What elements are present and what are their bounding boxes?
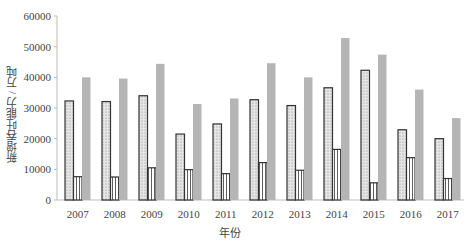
bar-series-gray-2013 xyxy=(304,77,313,200)
bar-series-gray-2017 xyxy=(452,118,461,200)
x-tick-label: 2012 xyxy=(252,208,274,220)
bar-series-gray-2010 xyxy=(193,104,202,200)
x-tick-label: 2008 xyxy=(104,208,127,220)
y-tick-label: 30000 xyxy=(24,102,52,114)
bar-series-dotted-2014 xyxy=(324,88,333,200)
bar-series-gray-2012 xyxy=(267,63,276,200)
bar-series-gray-2016 xyxy=(415,90,424,200)
bar-series-vertical-lines-2012 xyxy=(259,163,268,200)
bar-series-gray-2011 xyxy=(230,98,239,200)
bar-series-gray-2007 xyxy=(82,77,91,200)
bar-series-dotted-2012 xyxy=(250,100,259,200)
bar-series-dotted-2015 xyxy=(361,70,370,200)
bar-series-vertical-lines-2016 xyxy=(407,158,416,200)
bar-chart: 0100002000030000400005000060000200720082… xyxy=(0,0,467,244)
bar-series-vertical-lines-2007 xyxy=(74,177,83,200)
y-tick-label: 60000 xyxy=(24,10,52,22)
bar-series-gray-2015 xyxy=(378,55,387,200)
x-tick-label: 2014 xyxy=(326,208,349,220)
x-tick-label: 2013 xyxy=(289,208,312,220)
bar-series-vertical-lines-2011 xyxy=(222,174,231,200)
bar-series-dotted-2009 xyxy=(139,96,148,200)
x-tick-label: 2016 xyxy=(400,208,423,220)
bar-series-vertical-lines-2009 xyxy=(148,168,157,200)
bar-series-dotted-2011 xyxy=(213,124,222,200)
bar-series-vertical-lines-2015 xyxy=(370,183,379,200)
bar-series-dotted-2007 xyxy=(65,101,74,200)
bar-series-vertical-lines-2014 xyxy=(333,149,342,200)
bar-series-vertical-lines-2013 xyxy=(296,170,305,200)
bar-series-vertical-lines-2010 xyxy=(185,170,194,200)
bar-series-gray-2014 xyxy=(341,38,350,200)
y-tick-label: 20000 xyxy=(24,133,52,145)
y-tick-label: 40000 xyxy=(24,71,52,83)
bars xyxy=(65,38,461,200)
bar-series-vertical-lines-2017 xyxy=(444,179,453,200)
x-tick-label: 2009 xyxy=(141,208,164,220)
y-axis-label: 新增吞吐能力 / 万吨 xyxy=(4,40,22,190)
x-tick-label: 2017 xyxy=(437,208,460,220)
bar-series-dotted-2010 xyxy=(176,134,185,200)
bar-series-vertical-lines-2008 xyxy=(111,177,120,200)
x-tick-label: 2010 xyxy=(178,208,201,220)
bar-series-gray-2008 xyxy=(119,79,128,200)
y-tick-label: 0 xyxy=(46,194,52,206)
y-tick-label: 10000 xyxy=(24,163,52,175)
bar-series-dotted-2013 xyxy=(287,106,296,200)
y-tick-label: 50000 xyxy=(24,41,52,53)
bar-series-dotted-2017 xyxy=(435,139,444,200)
bar-series-gray-2009 xyxy=(156,64,165,200)
bar-series-dotted-2008 xyxy=(102,102,111,200)
bar-series-dotted-2016 xyxy=(398,130,407,200)
x-axis-label: 年份 xyxy=(200,224,260,240)
x-tick-label: 2007 xyxy=(67,208,90,220)
x-tick-label: 2015 xyxy=(363,208,386,220)
x-tick-label: 2011 xyxy=(215,208,237,220)
